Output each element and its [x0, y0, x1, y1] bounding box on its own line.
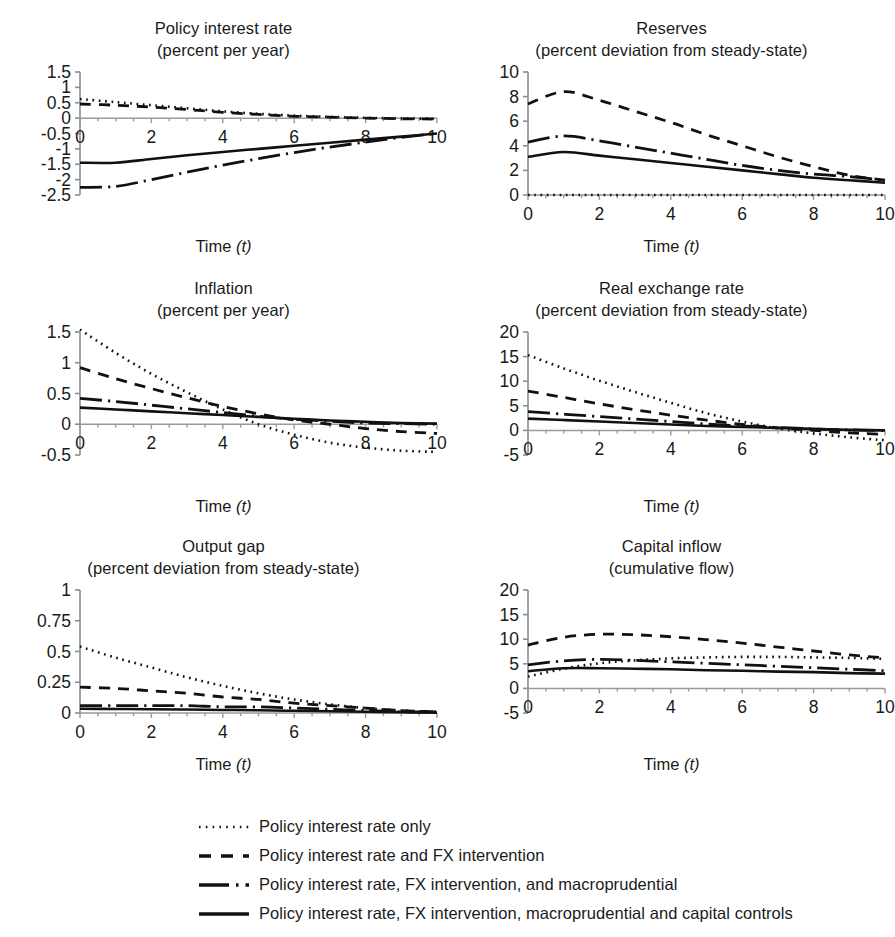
x-axis-label-text: Time	[643, 237, 679, 255]
chart-subtitle-line2: (percent per year)	[0, 300, 447, 322]
svg-text:0: 0	[509, 678, 519, 698]
svg-text:4: 4	[666, 697, 676, 717]
solid-line-key	[198, 907, 250, 921]
svg-text:8: 8	[361, 722, 371, 742]
chart-title-line1: Inflation	[194, 279, 253, 297]
legend-item: Policy interest rate, FX intervention, a…	[0, 870, 895, 899]
chart-title-inflation: Inflation (percent per year)	[0, 278, 447, 322]
svg-text:0: 0	[523, 204, 533, 224]
svg-text:6: 6	[289, 127, 299, 147]
plot-area-real-exchange-rate: 20151050-50246810	[448, 322, 895, 497]
svg-text:8: 8	[809, 204, 819, 224]
svg-text:4: 4	[218, 722, 228, 742]
svg-text:20: 20	[500, 580, 520, 600]
svg-text:5: 5	[509, 653, 519, 673]
svg-text:0: 0	[75, 127, 85, 147]
plot-area-capital-inflow: 20151050-50246810	[448, 580, 895, 755]
x-axis-label-variable: (t)	[684, 497, 700, 515]
svg-text:15: 15	[500, 346, 519, 366]
x-axis-label-variable: (t)	[236, 497, 252, 515]
plot-svg-output-gap: 10.750.50.2500246810	[0, 580, 447, 755]
svg-text:0: 0	[523, 439, 533, 459]
chart-subtitle-line2: (percent deviation from steady-state)	[448, 300, 895, 322]
plot-area-inflation: 1.510.50-0.50246810	[0, 322, 447, 497]
svg-text:10: 10	[875, 439, 895, 459]
svg-text:0: 0	[61, 414, 71, 434]
svg-text:0.5: 0.5	[47, 383, 71, 403]
x-axis-label-text: Time	[643, 497, 679, 515]
svg-text:8: 8	[509, 86, 519, 106]
dashdot-line-key	[198, 878, 250, 892]
chart-subtitle-line2: (percent deviation from steady-state)	[0, 558, 447, 580]
svg-text:-5: -5	[503, 445, 519, 465]
x-axis-label-variable: (t)	[684, 755, 700, 773]
legend-item-label: Policy interest rate, FX intervention, a…	[259, 875, 677, 894]
chart-title-policy-interest-rate: Policy interest rate (percent per year)	[0, 18, 447, 62]
svg-text:8: 8	[809, 697, 819, 717]
x-axis-label-variable: (t)	[236, 755, 252, 773]
svg-text:6: 6	[289, 722, 299, 742]
svg-text:0: 0	[523, 697, 533, 717]
plot-svg-inflation: 1.510.50-0.50246810	[0, 322, 447, 497]
figure-legend: Policy interest rate only Policy interes…	[0, 812, 895, 928]
svg-text:2: 2	[147, 433, 157, 453]
x-axis-label-variable: (t)	[684, 237, 700, 255]
plot-area-reserves: 10864200246810	[448, 62, 895, 237]
svg-text:10: 10	[427, 433, 447, 453]
plot-svg-real-exchange-rate: 20151050-50246810	[448, 322, 895, 497]
x-axis-label-real-exchange-rate: Time (t)	[448, 497, 895, 516]
svg-text:6: 6	[737, 697, 747, 717]
chart-title-line1: Policy interest rate	[155, 19, 293, 37]
chart-panel-inflation: Inflation (percent per year) 1.510.50-0.…	[0, 278, 447, 540]
legend-item-label: Policy interest rate only	[259, 817, 431, 836]
legend-item: Policy interest rate and FX intervention	[0, 841, 895, 870]
svg-text:10: 10	[500, 62, 520, 82]
svg-text:8: 8	[809, 439, 819, 459]
chart-panel-output-gap: Output gap (percent deviation from stead…	[0, 536, 447, 798]
chart-panel-policy-interest-rate: Policy interest rate (percent per year) …	[0, 18, 447, 280]
impulse-response-figure: Policy interest rate (percent per year) …	[0, 0, 895, 937]
chart-subtitle-line2: (percent per year)	[0, 40, 447, 62]
dotted-line-key	[198, 820, 250, 834]
legend-item: Policy interest rate, FX intervention, m…	[0, 899, 895, 928]
svg-text:2: 2	[595, 204, 605, 224]
x-axis-label-text: Time	[195, 237, 231, 255]
chart-subtitle-line2: (percent deviation from steady-state)	[448, 40, 895, 62]
legend-item-label: Policy interest rate and FX intervention	[259, 846, 544, 865]
plot-area-policy-interest-rate: 1.510.50-0.5-1-1.5-2-2.50246810	[0, 62, 447, 237]
x-axis-label-text: Time	[643, 755, 679, 773]
svg-text:-5: -5	[503, 703, 519, 723]
chart-subtitle-line2: (cumulative flow)	[448, 558, 895, 580]
svg-text:0.25: 0.25	[37, 672, 71, 692]
svg-text:8: 8	[361, 127, 371, 147]
x-axis-label-reserves: Time (t)	[448, 237, 895, 256]
plot-area-output-gap: 10.750.50.2500246810	[0, 580, 447, 755]
svg-text:-2.5: -2.5	[41, 185, 71, 205]
chart-title-reserves: Reserves (percent deviation from steady-…	[448, 18, 895, 62]
svg-text:6: 6	[509, 111, 519, 131]
svg-text:0: 0	[61, 703, 71, 723]
svg-text:4: 4	[218, 127, 228, 147]
svg-text:10: 10	[875, 697, 895, 717]
svg-text:4: 4	[666, 439, 676, 459]
svg-text:2: 2	[509, 160, 519, 180]
svg-text:8: 8	[361, 433, 371, 453]
svg-text:1: 1	[61, 580, 71, 600]
svg-text:2: 2	[595, 439, 605, 459]
chart-panel-real-exchange-rate: Real exchange rate (percent deviation fr…	[448, 278, 895, 540]
legend-item: Policy interest rate only	[0, 812, 895, 841]
svg-text:4: 4	[666, 204, 676, 224]
svg-text:15: 15	[500, 604, 519, 624]
svg-text:0.75: 0.75	[37, 610, 71, 630]
chart-title-line1: Output gap	[182, 537, 265, 555]
x-axis-label-inflation: Time (t)	[0, 497, 447, 516]
svg-text:10: 10	[427, 127, 447, 147]
svg-text:2: 2	[147, 722, 157, 742]
svg-text:4: 4	[509, 135, 519, 155]
x-axis-label-text: Time	[195, 497, 231, 515]
chart-panel-capital-inflow: Capital inflow (cumulative flow) 2015105…	[448, 536, 895, 798]
svg-text:1: 1	[61, 352, 71, 372]
svg-text:10: 10	[875, 204, 895, 224]
svg-text:4: 4	[218, 433, 228, 453]
chart-title-capital-inflow: Capital inflow (cumulative flow)	[448, 536, 895, 580]
